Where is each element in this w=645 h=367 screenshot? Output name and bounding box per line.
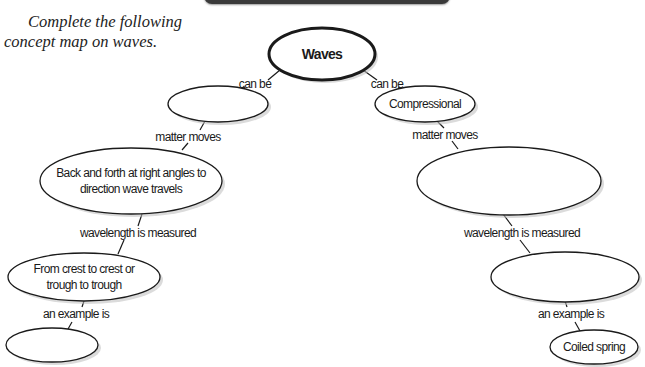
link-label-left-matter-moves: matter moves xyxy=(155,131,221,144)
link-label-right-matter-moves: matter moves xyxy=(412,129,478,142)
root-node-label: Waves xyxy=(302,46,342,62)
link-label-left-wavelength: wavelength is measured xyxy=(80,227,196,240)
left-example-node-blank[interactable] xyxy=(6,328,98,362)
connector-right-type-matter-b xyxy=(452,141,458,149)
left-wavelength-node-label: From crest to crest or trough to trough xyxy=(34,261,135,293)
link-label-left-example: an example is xyxy=(43,308,109,321)
link-label-right-wavelength: wavelength is measured xyxy=(464,227,580,240)
connector-right-wl-b xyxy=(520,240,530,253)
connector-left-wl-ex-b xyxy=(68,322,72,329)
link-label-left-can-be: can be xyxy=(239,78,271,91)
link-label-right-can-be: can be xyxy=(371,78,403,91)
right-example-node-label: Coiled spring xyxy=(563,339,625,355)
right-wavelength-node-blank[interactable] xyxy=(491,252,639,302)
connector-left-type-matter-b xyxy=(182,143,188,150)
right-type-node-label: Compressional xyxy=(389,96,461,112)
left-matter-node-label: Back and forth at right angles to direct… xyxy=(56,165,206,197)
right-matter-node-blank[interactable] xyxy=(417,147,601,215)
left-wavelength-node-line-2: trough to trough xyxy=(34,277,135,293)
link-label-right-example: an example is xyxy=(538,308,604,321)
left-matter-node-line-1: Back and forth at right angles to xyxy=(56,165,206,181)
connector-left-matter-wl-b xyxy=(118,240,124,254)
left-type-node-blank[interactable] xyxy=(168,86,268,122)
connector-right-wl-ex-b xyxy=(575,322,580,331)
left-wavelength-node-line-1: From crest to crest or xyxy=(34,261,135,277)
left-matter-node-line-2: direction wave travels xyxy=(56,181,206,197)
